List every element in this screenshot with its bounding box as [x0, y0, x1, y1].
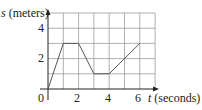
x-tick-4: 4: [105, 91, 111, 105]
x-tick-6: 6: [135, 91, 141, 105]
x-tick-2: 2: [74, 91, 80, 105]
x-tick-0: 0: [38, 91, 44, 105]
axes: [40, 12, 156, 100]
y-tick-4: 4: [38, 21, 44, 35]
x-axis-label: t (seconds): [148, 91, 200, 105]
y-tick-2: 2: [38, 51, 44, 65]
svg-text:t (seconds): t (seconds): [148, 91, 200, 105]
grid: [48, 13, 155, 89]
y-axis-label: s (meters): [1, 6, 49, 20]
svg-text:s (meters): s (meters): [1, 6, 49, 20]
position-time-chart: s (meters) 4 2 0 2 4 6 t (seconds): [0, 0, 202, 110]
